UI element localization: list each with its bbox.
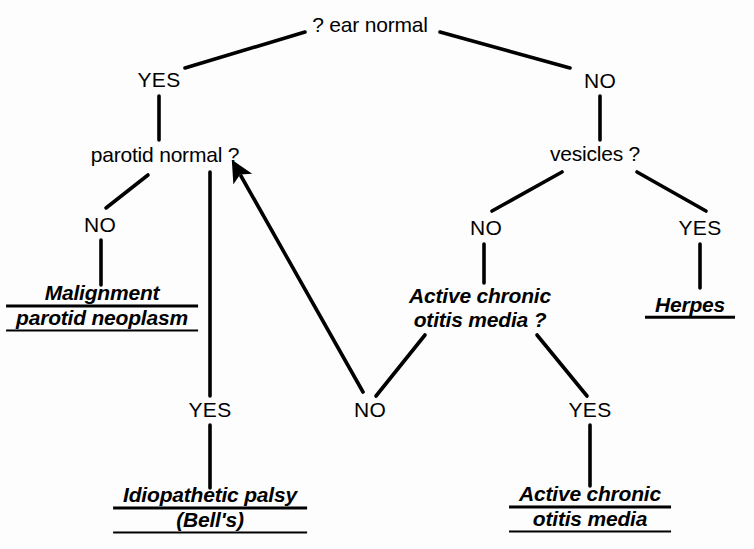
leaf-line: parotid neoplasm — [16, 306, 188, 331]
question-line: Active chronic — [409, 284, 551, 307]
edge-e-aco-yes — [537, 335, 587, 396]
branch-label-root-yes: YES — [138, 68, 181, 92]
branch-label-active-chronic-no: NO — [354, 398, 386, 422]
branch-label-active-chronic-yes: YES — [569, 398, 612, 422]
node-root-question: ? ear normal — [312, 13, 428, 37]
node-active-chronic-otitis-media-question: Active chronic otitis media ? — [409, 284, 551, 331]
edge-layer — [0, 0, 754, 549]
leaf-line: Active chronic — [519, 482, 661, 507]
branch-label-vesicles-yes: YES — [679, 216, 722, 240]
leaf-herpes: Herpes — [655, 293, 725, 318]
branch-label-parotid-no: NO — [84, 213, 116, 237]
edge-e-aco-no — [376, 335, 425, 396]
edge-e-parotid-no — [106, 175, 148, 208]
leaf-line: Idiopathetic palsy — [123, 483, 297, 508]
leaf-line: Herpes — [655, 293, 725, 318]
leaf-idiopathetic-palsy: Idiopathetic palsy (Bell's) — [123, 483, 297, 532]
edge-e-ves-yes — [637, 172, 706, 211]
leaf-line: Malignment — [16, 281, 188, 306]
edge-e-root-yes — [185, 32, 305, 68]
feedback-arrow-no-to-parotid — [241, 176, 363, 392]
leaf-active-chronic-otitis-media: Active chronic otitis media — [519, 482, 661, 531]
branch-label-parotid-yes: YES — [189, 398, 232, 422]
leaf-malignment-parotid-neoplasm: Malignment parotid neoplasm — [16, 281, 188, 330]
leaf-line: (Bell's) — [123, 508, 297, 533]
branch-label-root-no: NO — [584, 69, 616, 93]
node-vesicles-question: vesicles ? — [550, 142, 640, 166]
node-parotid-question: parotid normal ? — [91, 143, 240, 167]
edge-e-ves-no — [492, 172, 562, 211]
question-line: otitis media ? — [414, 308, 547, 331]
decision-tree-diagram: ? ear normal YES NO parotid normal ? ves… — [0, 0, 754, 549]
branch-label-vesicles-no: NO — [470, 216, 502, 240]
edge-e-root-no — [440, 32, 570, 68]
leaf-line: otitis media — [519, 507, 661, 532]
